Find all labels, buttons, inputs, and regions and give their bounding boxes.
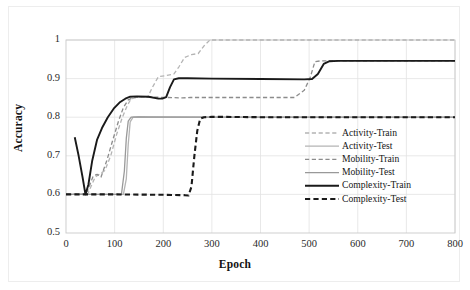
y-tick-label: 0.5	[32, 226, 60, 237]
y-tick-label: 0.7	[32, 149, 60, 160]
legend-label-activity-train: Activity-Train	[342, 127, 397, 138]
x-axis-title: Epoch	[0, 258, 470, 270]
legend-label-activity-test: Activity-Test	[342, 140, 392, 151]
legend-label-complexity-test: Complexity-Test	[342, 193, 406, 204]
chart-figure: Epoch Accuracy 0.50.60.70.80.91010020030…	[0, 0, 470, 290]
y-axis-title: Accuracy	[12, 78, 24, 178]
x-tick-label: 300	[192, 238, 232, 249]
x-tick-label: 600	[338, 238, 378, 249]
x-tick-label: 400	[241, 238, 281, 249]
x-tick-label: 0	[46, 238, 86, 249]
x-tick-label: 500	[289, 238, 329, 249]
y-tick-label: 0.6	[32, 187, 60, 198]
x-tick-label: 100	[95, 238, 135, 249]
y-tick-label: 0.9	[32, 72, 60, 83]
x-tick-label: 800	[435, 238, 470, 249]
legend-label-mobility-test: Mobility-Test	[342, 166, 395, 177]
y-tick-label: 0.8	[32, 110, 60, 121]
legend-label-complexity-train: Complexity-Train	[342, 179, 411, 190]
legend	[305, 133, 339, 199]
x-tick-label: 700	[386, 238, 426, 249]
y-tick-label: 1	[32, 33, 60, 44]
legend-label-mobility-train: Mobility-Train	[342, 153, 399, 164]
x-tick-label: 200	[143, 238, 183, 249]
series-line-complexity-train	[75, 61, 455, 195]
